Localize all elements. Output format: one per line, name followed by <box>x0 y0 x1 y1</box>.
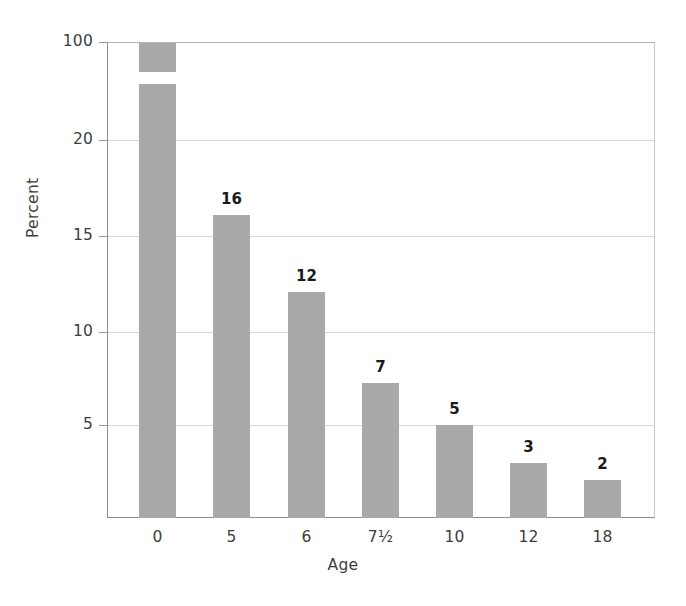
bar-age-7-half <box>362 383 399 518</box>
y-tick-mark-100 <box>99 42 107 43</box>
bar-age-0 <box>139 84 176 518</box>
x-tick-label-10: 10 <box>436 528 473 546</box>
bar-age-10 <box>436 425 473 518</box>
bar-age-0-broken-stub <box>139 43 176 72</box>
y-tick-mark-10 <box>99 332 107 333</box>
bar-age-12 <box>510 463 547 518</box>
bar-value-label-age-7-half: 7 <box>362 358 399 376</box>
x-tick-label-5: 5 <box>213 528 250 546</box>
x-tick-label-18: 18 <box>584 528 621 546</box>
bar-value-label-age-10: 5 <box>436 400 473 418</box>
y-tick-label-5-text: 5 <box>83 415 93 433</box>
bar-age-6 <box>288 292 325 518</box>
y-tick-label-15-text: 15 <box>73 226 93 244</box>
bar-value-label-age-5: 16 <box>213 190 250 208</box>
bar-value-label-age-12: 3 <box>510 438 547 456</box>
x-tick-label-12: 12 <box>510 528 547 546</box>
bar-value-label-age-6: 12 <box>288 267 325 285</box>
bar-age-18 <box>584 480 621 518</box>
x-tick-label-0: 0 <box>139 528 176 546</box>
x-tick-label-6: 6 <box>288 528 325 546</box>
bar-chart: 100 20 15 10 5 Percent 16 12 7 5 3 2 0 5… <box>0 0 686 606</box>
x-axis-title: Age <box>0 556 686 574</box>
y-tick-label-20-text: 20 <box>73 130 93 148</box>
y-axis-title: Percent <box>24 178 42 238</box>
y-tick-label-100-text: 100 <box>63 32 93 50</box>
y-tick-label-10-text: 10 <box>73 322 93 340</box>
bar-age-5 <box>213 215 250 518</box>
y-tick-mark-5 <box>99 425 107 426</box>
x-tick-label-7-half: 7½ <box>356 528 405 546</box>
y-tick-mark-15 <box>99 236 107 237</box>
y-tick-mark-20 <box>99 140 107 141</box>
bar-value-label-age-18: 2 <box>584 455 621 473</box>
